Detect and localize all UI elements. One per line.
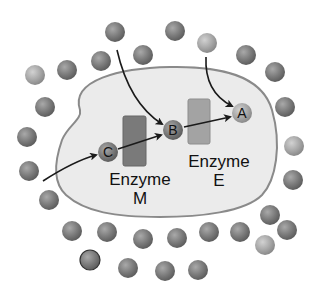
outside-molecule <box>199 222 219 242</box>
outside-molecule <box>39 190 59 210</box>
enzyme-m-label: Enzyme M <box>103 171 177 207</box>
outside-molecule <box>275 97 295 117</box>
outside-molecule <box>236 45 256 65</box>
outside-molecule <box>133 45 153 65</box>
outside-molecule <box>19 161 39 181</box>
outside-molecule <box>230 222 250 242</box>
molecule-b: B <box>163 120 183 140</box>
molecule-a-label: A <box>237 105 247 121</box>
enzyme-m-label-line2: M <box>103 190 177 207</box>
outside-molecule <box>57 60 77 80</box>
outside-molecule <box>118 258 138 278</box>
outside-molecule <box>35 97 55 117</box>
outside-molecule <box>265 62 285 82</box>
outside-molecule <box>97 222 117 242</box>
outside-molecule <box>283 170 303 190</box>
enzyme-e-label-line2: E <box>181 172 257 189</box>
outside-molecule <box>80 250 100 270</box>
outside-molecule <box>25 65 45 85</box>
outside-molecule <box>165 21 185 41</box>
cell-pathway-diagram: C B A Enzyme M Enzyme E <box>0 0 323 299</box>
outside-molecule <box>167 228 187 248</box>
outside-molecule <box>17 127 37 147</box>
outside-molecule <box>105 22 125 42</box>
molecule-a: A <box>232 103 252 123</box>
outside-molecule <box>260 205 280 225</box>
molecule-c: C <box>98 142 118 162</box>
outside-molecule <box>188 260 208 280</box>
outside-molecule <box>277 220 297 240</box>
outside-molecule <box>133 229 153 249</box>
outside-molecule <box>62 221 82 241</box>
enzyme-e-label: Enzyme E <box>181 153 257 189</box>
outside-molecule <box>284 136 304 156</box>
molecule-c-label: C <box>103 144 113 160</box>
molecule-b-label: B <box>168 122 177 138</box>
enzyme-e-label-line1: Enzyme <box>181 153 257 170</box>
enzyme-m-label-line1: Enzyme <box>103 171 177 188</box>
outside-molecule <box>155 261 175 281</box>
outside-molecule <box>197 33 217 53</box>
outside-molecule <box>255 235 275 255</box>
outside-molecule <box>91 51 111 71</box>
